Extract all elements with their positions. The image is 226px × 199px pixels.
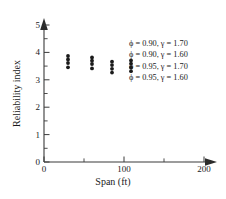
y-tick-label-2: 2 <box>22 102 40 112</box>
data-point <box>110 71 114 75</box>
data-point <box>90 56 94 60</box>
x-axis-major-ticks <box>44 157 204 163</box>
y-tick-label-5: 5 <box>22 20 40 30</box>
x-tick-label-200: 200 <box>192 164 216 174</box>
y-tick-label-4: 4 <box>22 47 40 57</box>
y-tick-label-1: 1 <box>22 130 40 140</box>
data-point <box>66 65 70 69</box>
data-point <box>66 54 70 58</box>
data-point <box>90 62 94 66</box>
data-point <box>66 58 70 62</box>
x-tick-label-0: 0 <box>32 164 56 174</box>
y-axis-title: Reliability index <box>11 44 22 144</box>
legend-entry: ϕ = 0.90, γ = 1.60 <box>129 49 188 60</box>
data-point <box>110 63 114 67</box>
legend-entry: ϕ = 0.95, γ = 1.70 <box>129 61 188 72</box>
data-point <box>66 61 70 65</box>
y-tick-label-3: 3 <box>22 75 40 85</box>
data-point-group <box>66 54 133 74</box>
y-axis-group <box>40 18 48 162</box>
data-point <box>110 60 114 64</box>
x-axis-title: Span (ft) <box>0 176 226 187</box>
legend-entry: ϕ = 0.90, γ = 1.70 <box>129 38 188 49</box>
chart-figure: 0 1 2 3 4 5 0 100 200 Span (ft) Reliabil… <box>0 0 226 199</box>
legend-entry: ϕ = 0.95, γ = 1.60 <box>129 72 188 83</box>
data-point <box>90 59 94 63</box>
data-point <box>110 67 114 71</box>
chart-legend: ϕ = 0.90, γ = 1.70 ϕ = 0.90, γ = 1.60 ϕ … <box>129 38 188 83</box>
x-tick-label-100: 100 <box>112 164 136 174</box>
y-axis-arrowhead <box>40 18 48 30</box>
data-point <box>90 67 94 71</box>
